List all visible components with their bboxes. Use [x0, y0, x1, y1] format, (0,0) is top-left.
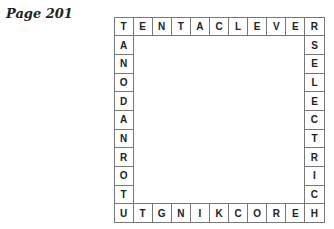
letter-cell: D: [114, 91, 134, 111]
letter-cell: H: [304, 203, 324, 223]
empty-cell: [209, 185, 228, 204]
empty-cell: [229, 129, 248, 148]
empty-cell: [286, 54, 305, 73]
empty-cell: [209, 129, 228, 148]
empty-cell: [133, 92, 152, 111]
letter-cell: N: [152, 17, 172, 37]
empty-cell: [286, 129, 305, 148]
empty-cell: [267, 73, 286, 92]
empty-cell: [267, 110, 286, 129]
letter-cell: T: [304, 129, 324, 149]
empty-cell: [248, 36, 267, 55]
letter-cell: A: [190, 17, 210, 37]
empty-cell: [133, 36, 152, 55]
letter-cell: G: [152, 203, 172, 223]
letter-cell: N: [114, 129, 134, 149]
empty-cell: [267, 167, 286, 186]
empty-cell: [171, 185, 190, 204]
letter-cell: A: [114, 35, 134, 55]
empty-cell: [286, 92, 305, 111]
empty-cell: [152, 73, 171, 92]
empty-cell: [133, 110, 152, 129]
empty-cell: [190, 185, 209, 204]
empty-cell: [171, 110, 190, 129]
letter-cell: N: [171, 203, 191, 223]
letter-cell: O: [114, 73, 134, 93]
empty-cell: [209, 110, 228, 129]
letter-cell: T: [133, 203, 153, 223]
empty-cell: [190, 36, 209, 55]
empty-cell: [171, 36, 190, 55]
letter-cell: R: [114, 147, 134, 167]
letter-cell: C: [304, 110, 324, 130]
empty-cell: [190, 148, 209, 167]
empty-cell: [190, 73, 209, 92]
empty-cell: [267, 92, 286, 111]
letter-cell: R: [304, 17, 324, 37]
letter-cell: E: [304, 54, 324, 74]
empty-cell: [133, 185, 152, 204]
empty-cell: [248, 129, 267, 148]
empty-cell: [229, 36, 248, 55]
empty-cell: [171, 73, 190, 92]
empty-cell: [267, 148, 286, 167]
empty-cell: [248, 54, 267, 73]
page-label: Page 201: [6, 6, 73, 21]
empty-cell: [209, 54, 228, 73]
empty-cell: [209, 92, 228, 111]
empty-cell: [248, 92, 267, 111]
empty-cell: [248, 148, 267, 167]
empty-cell: [152, 54, 171, 73]
empty-cell: [267, 185, 286, 204]
letter-cell: A: [114, 110, 134, 130]
empty-cell: [152, 148, 171, 167]
empty-cell: [267, 36, 286, 55]
letter-cell: T: [171, 17, 191, 37]
letter-cell: R: [304, 147, 324, 167]
empty-cell: [286, 110, 305, 129]
empty-cell: [286, 148, 305, 167]
empty-cell: [286, 73, 305, 92]
empty-cell: [152, 110, 171, 129]
empty-cell: [133, 73, 152, 92]
letter-cell: T: [114, 17, 134, 37]
word-square-grid: TENTACLEVERASNEOLDEACNTRROITCUTGNIKCOREH: [114, 17, 324, 223]
empty-cell: [190, 167, 209, 186]
empty-cell: [209, 36, 228, 55]
letter-cell: I: [304, 166, 324, 186]
empty-cell: [286, 185, 305, 204]
empty-cell: [286, 36, 305, 55]
letter-cell: E: [285, 203, 305, 223]
empty-cell: [229, 185, 248, 204]
empty-cell: [171, 167, 190, 186]
empty-cell: [209, 148, 228, 167]
letter-cell: T: [114, 185, 134, 205]
empty-cell: [209, 73, 228, 92]
letter-cell: L: [228, 17, 248, 37]
empty-cell: [229, 110, 248, 129]
letter-cell: S: [304, 35, 324, 55]
empty-cell: [190, 54, 209, 73]
empty-cell: [171, 129, 190, 148]
letter-cell: E: [285, 17, 305, 37]
letter-cell: V: [266, 17, 286, 37]
empty-cell: [229, 73, 248, 92]
letter-cell: I: [190, 203, 210, 223]
empty-cell: [229, 54, 248, 73]
letter-cell: L: [304, 73, 324, 93]
empty-cell: [152, 92, 171, 111]
empty-cell: [229, 167, 248, 186]
empty-cell: [152, 167, 171, 186]
empty-cell: [209, 167, 228, 186]
empty-cell: [248, 185, 267, 204]
letter-cell: R: [266, 203, 286, 223]
letter-cell: E: [247, 17, 267, 37]
letter-cell: C: [209, 17, 229, 37]
empty-cell: [152, 129, 171, 148]
empty-cell: [133, 167, 152, 186]
empty-cell: [248, 167, 267, 186]
letter-cell: C: [228, 203, 248, 223]
letter-cell: O: [247, 203, 267, 223]
empty-cell: [152, 36, 171, 55]
empty-cell: [229, 92, 248, 111]
